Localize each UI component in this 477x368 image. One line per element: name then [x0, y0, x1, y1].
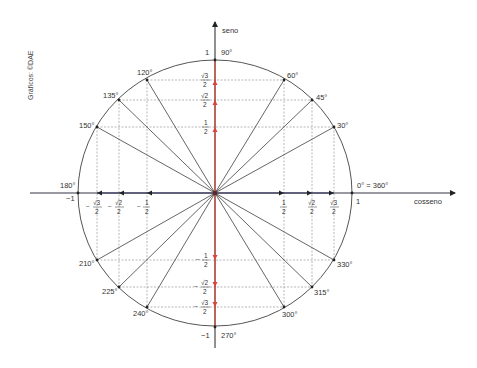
- cosine-value-sqrt3-over-2: √3 2: [330, 199, 339, 215]
- svg-text:2: 2: [203, 288, 207, 295]
- svg-text:√3: √3: [93, 199, 101, 206]
- svg-text:2: 2: [117, 208, 121, 215]
- angle-label-120: 120°: [137, 68, 153, 77]
- sine-value-neg-sqrt3-over-2: − √3 2: [194, 299, 210, 315]
- cosine-axis-label: cosseno: [414, 197, 442, 206]
- angle-label-0: 0° = 360°: [357, 181, 388, 190]
- sine-value-neg-half: − 1 2: [196, 252, 209, 268]
- svg-text:2: 2: [332, 208, 336, 215]
- angle-label-90: 90°: [221, 48, 232, 57]
- svg-text:2: 2: [95, 208, 99, 215]
- angle-label-330: 330°: [337, 260, 353, 269]
- angle-label-225: 225°: [102, 287, 118, 296]
- sine-value-neg-sqrt2-over-2: − √2 2: [194, 279, 210, 295]
- svg-text:√2: √2: [201, 279, 209, 286]
- svg-text:2: 2: [203, 81, 207, 88]
- svg-text:2: 2: [204, 261, 208, 268]
- svg-text:−: −: [137, 203, 141, 210]
- sine-value-half: 1 2: [202, 119, 209, 135]
- sine-value-sqrt2-over-2: √2 2: [201, 92, 210, 108]
- svg-text:−: −: [86, 203, 90, 210]
- cosine-value-neg-sqrt2-over-2: − √2 2: [108, 199, 124, 215]
- y-top-value: 1: [205, 48, 209, 57]
- svg-text:√3: √3: [330, 199, 338, 206]
- angle-label-30: 30°: [337, 121, 348, 130]
- svg-text:2: 2: [203, 101, 207, 108]
- angle-label-135: 135°: [103, 91, 119, 100]
- cosine-value-neg-sqrt3-over-2: − √3 2: [86, 199, 102, 215]
- cosine-value-sqrt2-over-2: √2 2: [308, 199, 317, 215]
- svg-text:2: 2: [203, 308, 207, 315]
- y-bottom-value: −1: [201, 331, 210, 340]
- svg-text:−: −: [194, 283, 198, 290]
- angle-label-60: 60°: [287, 71, 298, 80]
- svg-text:1: 1: [204, 252, 208, 259]
- angle-label-315: 315°: [314, 288, 330, 297]
- angle-label-210: 210°: [79, 259, 95, 268]
- angle-label-45: 45°: [316, 93, 327, 102]
- credit-text: Gráficos: ©DAE: [27, 50, 34, 100]
- svg-text:1: 1: [145, 199, 149, 206]
- sine-value-sqrt3-over-2: √3 2: [201, 72, 210, 88]
- angle-label-150: 150°: [79, 121, 95, 130]
- cosine-value-half: 1 2: [280, 199, 287, 215]
- angle-label-270: 270°: [221, 331, 237, 340]
- svg-text:−: −: [194, 303, 198, 310]
- cosine-value-neg-half: − 1 2: [137, 199, 150, 215]
- svg-text:√2: √2: [201, 92, 209, 99]
- svg-text:√2: √2: [308, 199, 316, 206]
- svg-text:1: 1: [282, 199, 286, 206]
- svg-text:√2: √2: [115, 199, 123, 206]
- unit-circle-diagram: Gráficos: ©DAE: [0, 0, 477, 368]
- svg-text:−: −: [108, 203, 112, 210]
- x-left-value: −1: [66, 194, 75, 203]
- angle-label-300: 300°: [282, 310, 298, 319]
- svg-text:2: 2: [310, 208, 314, 215]
- svg-text:2: 2: [282, 208, 286, 215]
- svg-text:√3: √3: [201, 299, 209, 306]
- svg-text:2: 2: [204, 128, 208, 135]
- svg-text:1: 1: [204, 119, 208, 126]
- svg-text:2: 2: [145, 208, 149, 215]
- angle-label-240: 240°: [133, 309, 149, 318]
- svg-text:−: −: [196, 256, 200, 263]
- angle-label-180: 180°: [60, 181, 76, 190]
- sine-axis-label: seno: [222, 26, 238, 35]
- svg-text:√3: √3: [201, 72, 209, 79]
- x-right-value: 1: [356, 197, 360, 206]
